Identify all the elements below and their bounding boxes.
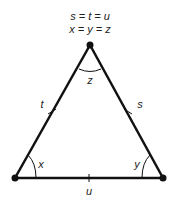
- vertex-bottom-left: [12, 175, 19, 182]
- equation-angles: x = y = z: [68, 23, 111, 35]
- angle-label-z: z: [86, 74, 93, 86]
- equation-sides: s = t = u: [70, 10, 110, 22]
- side-right: [90, 45, 163, 178]
- angle-arc-top: [79, 69, 101, 72]
- side-label-s: s: [137, 98, 143, 110]
- angle-arc-bottom-right: [142, 155, 150, 178]
- triangle: [12, 42, 167, 182]
- angle-arc-bottom-left: [28, 155, 36, 178]
- side-label-t: t: [40, 98, 44, 110]
- vertex-bottom-right: [160, 175, 167, 182]
- angle-label-x: x: [37, 158, 44, 170]
- angle-label-y: y: [133, 158, 141, 170]
- side-label-u: u: [86, 185, 92, 197]
- vertex-top: [87, 42, 94, 49]
- equilateral-triangle-diagram: s = t = u x = y = z z x y t s u: [0, 0, 176, 202]
